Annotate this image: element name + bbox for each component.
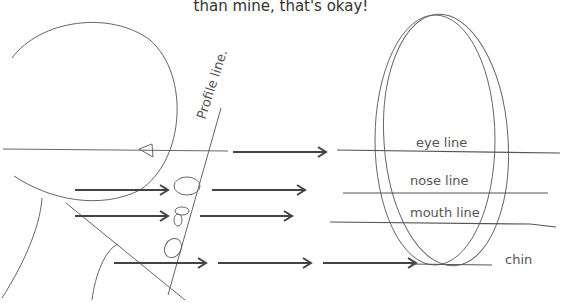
face-proportion-sketch: Profile line. eye line nose line mouth l… [0, 0, 562, 303]
mouth-arrow-1 [75, 211, 168, 221]
chin-arrow-2 [218, 258, 311, 268]
nose-shape [174, 177, 200, 195]
eye-line [337, 150, 560, 153]
profile-line-label: Profile line. [194, 48, 231, 121]
nose-line-label: nose line [410, 173, 469, 188]
chin-arrow-3 [323, 258, 416, 268]
chin-line [410, 264, 492, 265]
profile-line [168, 108, 221, 295]
eye-guide-line [3, 149, 228, 151]
neck-back-line [2, 198, 42, 298]
chin-arrow-1 [114, 258, 206, 268]
mouth-lower-lip [174, 214, 182, 226]
eye-line-label: eye line [416, 135, 467, 150]
neck-front-line [92, 244, 118, 300]
chin-label: chin [505, 252, 532, 267]
mouth-arrow-2 [200, 211, 292, 221]
nose-arrow-2 [212, 185, 305, 195]
eye-arrow [233, 147, 326, 157]
mouth-line-label: mouth line [410, 205, 480, 220]
profile-head-outline [12, 22, 177, 200]
chin-shape [161, 235, 185, 260]
mouth-line [330, 222, 556, 227]
nose-arrow-1 [75, 185, 168, 195]
